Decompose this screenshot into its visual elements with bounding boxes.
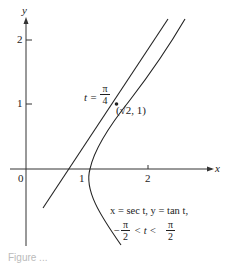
x-axis-label: x xyxy=(215,162,220,174)
origin-label: 0 xyxy=(18,172,24,184)
figure-caption: Figure ... xyxy=(8,252,47,263)
x-tick-2: 2 xyxy=(145,172,151,184)
x-tick-1: 1 xyxy=(79,172,85,184)
y-tick-2: 2 xyxy=(17,33,23,45)
t-fraction: π 4 xyxy=(100,83,110,106)
y-axis-arrow-icon xyxy=(24,17,29,24)
t-label: t = xyxy=(84,91,97,103)
point-label: (√2, 1) xyxy=(116,104,146,116)
y-tick-1: 1 xyxy=(17,97,23,109)
equation-line-1: x = sec t, y = tan t, xyxy=(110,205,188,216)
x-axis-arrow-icon xyxy=(207,167,214,172)
y-axis-label: y xyxy=(22,4,27,16)
